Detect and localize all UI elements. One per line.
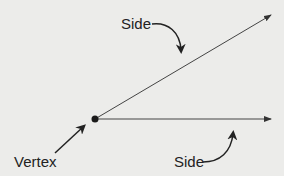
- angle-diagram: Side Vertex Side: [0, 0, 284, 176]
- lower-side-pointer-arrow: [203, 134, 233, 162]
- lower-side-label: Side: [174, 153, 204, 170]
- vertex-pointer-arrow: [55, 127, 83, 153]
- upper-side-label: Side: [121, 15, 151, 32]
- upper-side-pointer-arrow: [152, 24, 181, 50]
- vertex-label: Vertex: [14, 153, 57, 170]
- vertex-point: [92, 116, 99, 123]
